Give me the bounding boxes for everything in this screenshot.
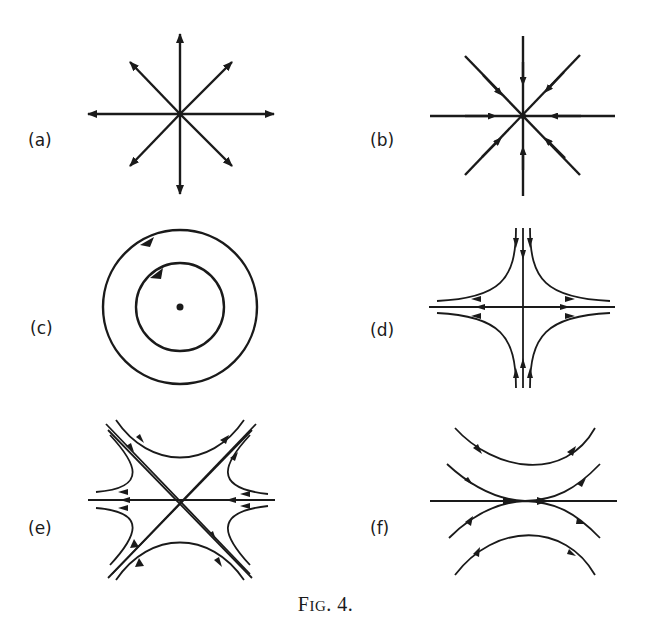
center-diagram	[0, 210, 325, 400]
tangent-point-diagram	[325, 400, 651, 625]
caption-number: . 4.	[326, 593, 353, 615]
panel-e: (e)	[0, 400, 325, 625]
caption-smallcaps: IG	[309, 598, 326, 614]
source-node-diagram	[0, 0, 325, 210]
panel-b: (b)	[325, 0, 651, 210]
panel-c: (c)	[0, 210, 325, 400]
diagonal-saddle-diagram	[0, 400, 325, 625]
panel-a: (a)	[0, 0, 325, 210]
sink-node-diagram	[325, 0, 651, 210]
panel-f: (f)	[325, 400, 651, 625]
caption-first-letter: F	[298, 593, 310, 615]
figure-caption: FIG. 4.	[0, 593, 651, 616]
saddle-diagram	[325, 210, 651, 400]
panel-d: (d)	[325, 210, 651, 400]
